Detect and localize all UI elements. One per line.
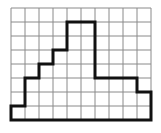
grid-diagram (0, 0, 161, 133)
grid-lines (11, 8, 151, 120)
